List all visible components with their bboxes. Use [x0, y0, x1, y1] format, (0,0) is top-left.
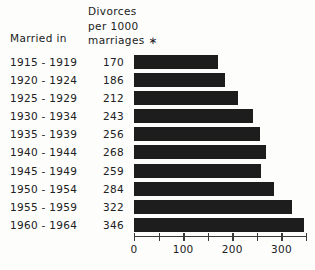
chart-row: 1940 - 1944268	[0, 145, 315, 163]
value-column-header: Divorces per 1000 marriages ∗	[88, 4, 157, 48]
chart-row: 1945 - 1949259	[0, 164, 315, 182]
value-column-header-line-1: Divorces	[88, 4, 157, 19]
row-bar-track	[134, 55, 218, 69]
x-axis-minor-tick	[208, 233, 209, 241]
row-bar	[134, 109, 253, 123]
row-bar-track	[134, 127, 260, 141]
row-period-label: 1950 - 1954	[10, 183, 77, 195]
category-column-header: Married in	[10, 32, 67, 44]
row-period-label: 1960 - 1964	[10, 219, 77, 231]
x-axis-major-tick	[232, 233, 233, 241]
row-period-label: 1920 - 1924	[10, 74, 77, 86]
row-bar	[134, 91, 238, 105]
row-period-label: 1945 - 1949	[10, 165, 77, 177]
x-axis-major-tick	[134, 233, 135, 241]
x-axis-tick-label: 0	[131, 243, 138, 255]
divorce-rate-bar-chart: Married in Divorces per 1000 marriages ∗…	[0, 0, 315, 270]
row-bar	[134, 182, 274, 196]
chart-row: 1930 - 1934243	[0, 109, 315, 127]
row-bar-track	[134, 164, 261, 178]
row-value-label: 186	[88, 74, 124, 86]
row-value-label: 268	[88, 146, 124, 158]
row-value-label: 243	[88, 110, 124, 122]
chart-row: 1920 - 1924186	[0, 73, 315, 91]
x-axis-minor-tick	[306, 233, 307, 241]
chart-row: 1955 - 1959322	[0, 200, 315, 218]
row-bar	[134, 218, 304, 232]
row-period-label: 1930 - 1934	[10, 110, 77, 122]
row-period-label: 1935 - 1939	[10, 128, 77, 140]
row-period-label: 1915 - 1919	[10, 56, 77, 68]
x-axis: 0100200300	[134, 236, 306, 270]
x-axis-tick-label: 200	[222, 243, 243, 255]
chart-row: 1935 - 1939256	[0, 127, 315, 145]
row-value-label: 170	[88, 56, 124, 68]
row-bar-track	[134, 91, 238, 105]
row-bar-track	[134, 73, 225, 87]
value-column-header-line-3: marriages ∗	[88, 33, 157, 48]
row-value-label: 256	[88, 128, 124, 140]
chart-row: 1960 - 1964346	[0, 218, 315, 236]
chart-row: 1925 - 1929212	[0, 91, 315, 109]
x-axis-tick-label: 100	[173, 243, 194, 255]
value-column-header-line-2: per 1000	[88, 19, 157, 34]
x-axis-major-tick	[281, 233, 282, 241]
row-period-label: 1925 - 1929	[10, 92, 77, 104]
row-bar	[134, 200, 292, 214]
row-value-label: 259	[88, 165, 124, 177]
chart-rows: 1915 - 19191701920 - 19241861925 - 19292…	[0, 55, 315, 236]
row-period-label: 1940 - 1944	[10, 146, 77, 158]
row-bar-track	[134, 109, 253, 123]
row-bar-track	[134, 200, 292, 214]
footnote-asterisk: ∗	[148, 34, 157, 46]
row-value-label: 284	[88, 183, 124, 195]
row-value-label: 322	[88, 201, 124, 213]
row-bar	[134, 145, 266, 159]
value-column-header-line-3-text: marriages	[88, 34, 145, 46]
chart-row: 1950 - 1954284	[0, 182, 315, 200]
row-bar	[134, 55, 218, 69]
row-bar	[134, 164, 261, 178]
row-bar	[134, 73, 225, 87]
x-axis-tick-label: 300	[271, 243, 292, 255]
row-bar	[134, 127, 260, 141]
row-bar-track	[134, 145, 266, 159]
row-period-label: 1955 - 1959	[10, 201, 77, 213]
row-value-label: 346	[88, 219, 124, 231]
x-axis-minor-tick	[159, 233, 160, 241]
x-axis-minor-tick	[257, 233, 258, 241]
row-bar-track	[134, 218, 304, 232]
row-value-label: 212	[88, 92, 124, 104]
row-bar-track	[134, 182, 274, 196]
x-axis-major-tick	[183, 233, 184, 241]
chart-row: 1915 - 1919170	[0, 55, 315, 73]
